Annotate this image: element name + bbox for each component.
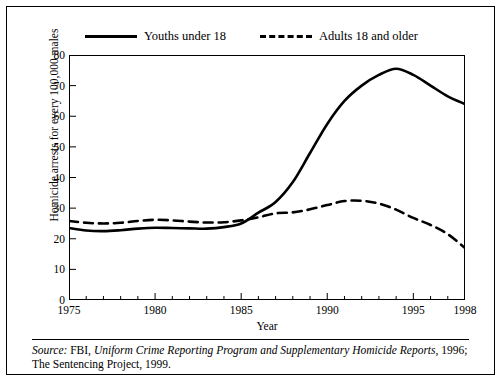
y-axis-tick-labels: 01020304050607080 xyxy=(41,55,65,300)
chart-legend: Youths under 18 Adults 18 and older xyxy=(7,23,496,49)
source-prefix: Source: xyxy=(32,344,67,356)
source-divider xyxy=(32,339,469,340)
x-tick-label: 1980 xyxy=(135,304,175,316)
legend-label-adults: Adults 18 and older xyxy=(319,29,418,44)
x-tick-label: 1985 xyxy=(221,304,261,316)
x-tick-label: 1995 xyxy=(393,304,433,316)
legend-entry-youths: Youths under 18 xyxy=(85,29,226,44)
chart-figure: Youths under 18 Adults 18 and older Homi… xyxy=(6,6,495,375)
source-note: Source: FBI, Uniform Crime Reporting Pro… xyxy=(32,343,472,371)
plot-area xyxy=(69,55,465,300)
legend-entry-adults: Adults 18 and older xyxy=(260,29,418,44)
y-tick-label: 10 xyxy=(43,263,65,275)
y-tick-label: 60 xyxy=(43,110,65,122)
y-tick-label: 20 xyxy=(43,233,65,245)
chart-svg xyxy=(69,55,465,300)
x-tick-label: 1990 xyxy=(307,304,347,316)
legend-label-youths: Youths under 18 xyxy=(144,29,226,44)
series-line-youths xyxy=(69,69,465,231)
y-tick-label: 30 xyxy=(43,202,65,214)
source-text-1: FBI, xyxy=(67,344,94,356)
y-tick-label: 70 xyxy=(43,80,65,92)
y-tick-label: 80 xyxy=(43,49,65,61)
y-tick-label: 50 xyxy=(43,141,65,153)
x-axis-label: Year xyxy=(69,320,465,332)
x-axis-tick-labels: 197519801985199019951998 xyxy=(69,304,465,320)
legend-line-dashed-icon xyxy=(260,35,312,38)
y-tick-label: 40 xyxy=(43,172,65,184)
legend-line-solid-icon xyxy=(85,35,137,38)
source-italic-1: Uniform Crime Reporting Program and Supp… xyxy=(94,344,436,356)
x-tick-label: 1998 xyxy=(445,304,485,316)
x-tick-label: 1975 xyxy=(49,304,89,316)
